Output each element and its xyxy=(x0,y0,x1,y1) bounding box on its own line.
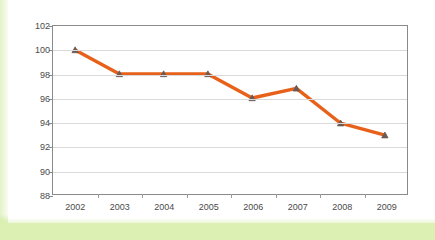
x-axis-tick-mark xyxy=(187,194,188,198)
y-gridline xyxy=(53,172,407,173)
line-chart: 8890929496981001022002200320042005200620… xyxy=(52,25,408,195)
x-axis-tick-mark xyxy=(365,194,366,198)
y-gridline xyxy=(53,147,407,148)
y-gridline xyxy=(53,123,407,124)
y-axis-tick-label: 98 xyxy=(6,70,50,80)
scanned-page: 8890929496981001022002200320042005200620… xyxy=(0,0,435,240)
y-axis-tick-label: 90 xyxy=(6,167,50,177)
x-axis-tick-mark xyxy=(320,194,321,198)
y-axis-tick-label: 92 xyxy=(6,142,50,152)
x-axis-tick-mark xyxy=(231,194,232,198)
y-axis-tick-label: 88 xyxy=(6,191,50,201)
y-gridline xyxy=(53,50,407,51)
y-gridline xyxy=(53,99,407,100)
x-axis-tick-mark xyxy=(276,194,277,198)
x-axis-tick-mark xyxy=(142,194,143,198)
y-axis-tick-label: 94 xyxy=(6,118,50,128)
plot-area xyxy=(53,26,407,194)
y-axis-tick-label: 100 xyxy=(6,45,50,55)
y-axis-tick-label: 102 xyxy=(6,21,50,31)
x-axis-tick-mark xyxy=(98,194,99,198)
y-gridline xyxy=(53,75,407,76)
page-bottom-tint-band xyxy=(0,223,435,240)
x-axis-tick-label: 2009 xyxy=(357,202,417,212)
y-axis-tick-label: 96 xyxy=(6,94,50,104)
